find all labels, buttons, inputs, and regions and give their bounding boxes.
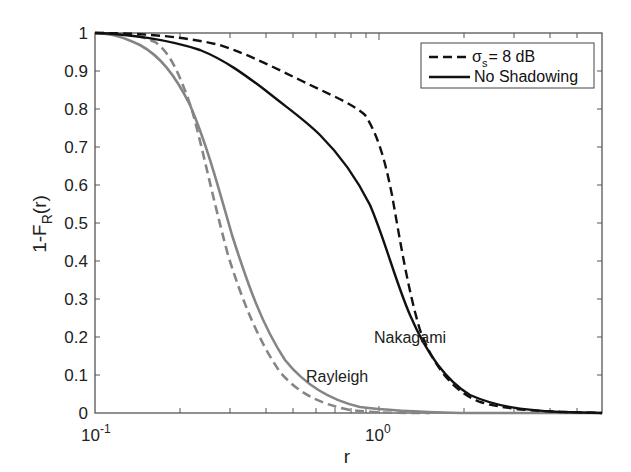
y-tick-label: 0.7: [64, 138, 88, 157]
nakagami-annotation: Nakagami: [374, 329, 446, 346]
x-tick-label: 10-1: [81, 422, 111, 445]
y-tick-label: 0.5: [64, 214, 88, 233]
y-tick-label: 0: [79, 404, 88, 423]
y-tick-label: 0.9: [64, 62, 88, 81]
y-tick-label: 0.4: [64, 252, 88, 271]
y-tick-label: 0.1: [64, 366, 88, 385]
rayleigh-annotation: Rayleigh: [306, 368, 368, 385]
legend: σs= 8 dB No Shadowing: [421, 43, 594, 88]
y-tick-label: 0.2: [64, 328, 88, 347]
y-tick-label: 1: [79, 24, 88, 43]
chart-canvas: 0 0.1 0.2 0.3 0.4 0.5 0.6 0.7 0.8 0.9 1 …: [0, 0, 631, 472]
plot-area: [95, 33, 602, 413]
x-axis-label: r: [344, 446, 351, 467]
y-tick-labels: 0 0.1 0.2 0.3 0.4 0.5 0.6 0.7 0.8 0.9 1: [64, 24, 88, 423]
legend-label-no-shadowing: No Shadowing: [474, 68, 578, 85]
x-tick-label: 100: [365, 422, 391, 445]
y-tick-label: 0.3: [64, 290, 88, 309]
y-tick-label: 0.6: [64, 176, 88, 195]
y-axis-label: 1-FR(r): [29, 195, 55, 253]
y-tick-label: 0.8: [64, 100, 88, 119]
